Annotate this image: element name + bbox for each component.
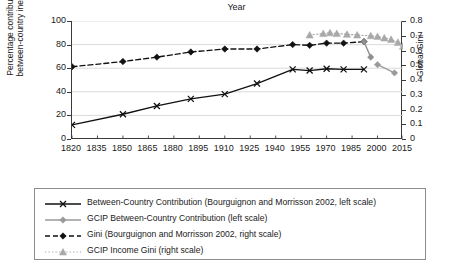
- y-axis-right-tick-label: 0.2: [410, 104, 436, 114]
- y-axis-right-title: Global Gini: [412, 16, 428, 96]
- data-point-marker: [59, 248, 66, 255]
- y-axis-right-tick-mark: [402, 51, 406, 52]
- legend-marker-diamond-filled-icon: [43, 228, 83, 240]
- legend-marker-triangle-icon: [43, 244, 83, 256]
- data-point-marker: [394, 39, 401, 46]
- legend-marker-x-icon: [43, 196, 83, 208]
- y-axis-left-tick-label: 100: [40, 15, 66, 25]
- data-point-marker: [222, 46, 228, 52]
- x-axis-tick-label: 2015: [387, 143, 417, 153]
- data-point-marker: [306, 42, 312, 48]
- legend-label: GCIP Income Gini (right scale): [87, 244, 203, 256]
- data-point-marker: [120, 58, 126, 64]
- y-axis-right-tick-mark: [402, 21, 406, 22]
- series-2: [374, 61, 397, 76]
- data-point-marker: [323, 40, 329, 46]
- y-axis-left-tick-mark: [67, 45, 71, 46]
- data-point-marker: [60, 233, 66, 239]
- series-line: [72, 42, 364, 67]
- series-5: [361, 38, 374, 60]
- y-axis-right-tick-label: 0.6: [410, 45, 436, 55]
- y-axis-left-tick-mark: [67, 21, 71, 22]
- series-3: [72, 38, 367, 69]
- chart-figure: Year Percentage contribution of between-…: [0, 0, 458, 268]
- y-axis-right-tick-mark: [402, 139, 406, 140]
- x-axis-title: Year: [71, 2, 402, 13]
- chart-legend: Between-Country Contribution (Bourguigno…: [34, 188, 426, 260]
- data-point-marker: [306, 31, 313, 38]
- y-axis-left-title-line1: Percentage contribution of: [5, 0, 16, 77]
- y-axis-left-tick-label: 0: [40, 133, 66, 143]
- y-axis-right-tick-label: 0.7: [410, 30, 436, 40]
- data-point-marker: [60, 217, 66, 223]
- y-axis-left-title: Percentage contribution of between-count…: [4, 0, 26, 89]
- y-axis-left-tick-label: 60: [40, 62, 66, 72]
- y-axis-left-tick-mark: [67, 68, 71, 69]
- data-point-marker: [381, 34, 388, 41]
- y-axis-left-tick-mark: [67, 92, 71, 93]
- data-point-marker: [72, 64, 75, 70]
- y-axis-left-tick-mark: [67, 139, 71, 140]
- y-axis-left-tick-label: 40: [40, 86, 66, 96]
- y-axis-right-tick-label: 0: [410, 133, 436, 143]
- y-axis-right-tick-label: 0.8: [410, 15, 436, 25]
- data-point-marker: [374, 61, 380, 67]
- legend-item[interactable]: Gini (Bourguignon and Morrisson 2002, ri…: [43, 227, 281, 241]
- data-point-marker: [340, 40, 346, 46]
- y-axis-left-tick-mark: [67, 115, 71, 116]
- legend-label: GCIP Between-Country Contribution (left …: [87, 212, 267, 224]
- legend-label: Gini (Bourguignon and Morrisson 2002, ri…: [87, 228, 281, 240]
- y-axis-left-tick-label: 20: [40, 109, 66, 119]
- y-axis-right-tick-label: 0.1: [410, 118, 436, 128]
- y-axis-left-tick-label: 80: [40, 39, 66, 49]
- y-axis-right-tick-mark: [402, 110, 406, 111]
- y-axis-right-tick-mark: [402, 95, 406, 96]
- plot-area: [71, 21, 402, 139]
- y-axis-left-title-line2: between-country inequality: [15, 0, 26, 77]
- data-point-marker: [361, 38, 367, 44]
- y-axis-right-tick-mark: [402, 80, 406, 81]
- legend-item[interactable]: GCIP Between-Country Contribution (left …: [43, 211, 267, 225]
- series-1: [72, 66, 367, 128]
- data-point-marker: [391, 70, 397, 76]
- y-axis-right-tick-label: 0.4: [410, 74, 436, 84]
- y-axis-right-tick-label: 0.3: [410, 89, 436, 99]
- legend-marker-diamond-icon: [43, 212, 83, 224]
- y-axis-right-tick-mark: [402, 124, 406, 125]
- data-point-marker: [188, 49, 194, 55]
- data-point-marker: [289, 41, 295, 47]
- y-axis-right-title-text: Global Gini: [415, 35, 425, 77]
- plot-svg: [72, 21, 403, 139]
- series-line: [378, 65, 395, 73]
- data-point-marker: [374, 33, 381, 40]
- legend-label: Between-Country Contribution (Bourguigno…: [87, 196, 376, 208]
- data-point-marker: [154, 54, 160, 60]
- series-4: [306, 29, 403, 49]
- y-axis-right-tick-mark: [402, 36, 406, 37]
- data-point-marker: [254, 46, 260, 52]
- series-line: [72, 69, 364, 125]
- y-axis-right-tick-mark: [402, 65, 406, 66]
- legend-item[interactable]: Between-Country Contribution (Bourguigno…: [43, 195, 376, 209]
- data-point-marker: [368, 54, 374, 60]
- y-axis-right-tick-label: 0.5: [410, 59, 436, 69]
- data-point-marker: [388, 36, 395, 43]
- legend-item[interactable]: GCIP Income Gini (right scale): [43, 243, 203, 257]
